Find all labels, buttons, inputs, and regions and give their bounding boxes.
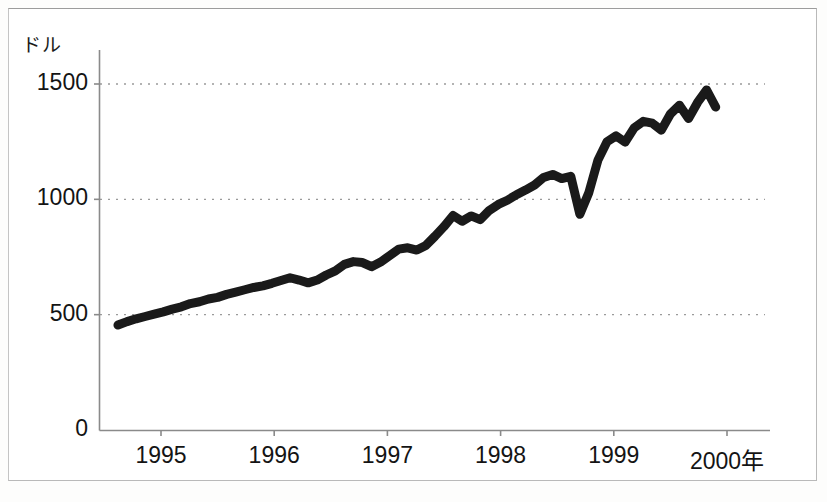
- data-series-line: [118, 90, 716, 325]
- chart-svg: [0, 0, 827, 502]
- x-axis-tick-label: 1999: [554, 442, 674, 469]
- chart-page: ドル 050010001500 199519961997199819992000…: [0, 0, 827, 502]
- y-axis-unit-label: ドル: [22, 30, 61, 57]
- x-axis-tick-label: 1995: [101, 442, 221, 469]
- x-axis-tick-label: 1998: [441, 442, 561, 469]
- y-axis-tick-label: 1500: [10, 69, 88, 96]
- x-axis-tick-label: 1996: [214, 442, 334, 469]
- y-axis-tick-label: 0: [10, 415, 88, 442]
- x-axis-tick-label: 2000年: [667, 442, 787, 476]
- y-axis-tick-label: 500: [10, 300, 88, 327]
- x-axis-tick-label: 1997: [327, 442, 447, 469]
- y-axis-tick-label: 1000: [10, 184, 88, 211]
- line-chart: ドル 050010001500 199519961997199819992000…: [0, 0, 827, 502]
